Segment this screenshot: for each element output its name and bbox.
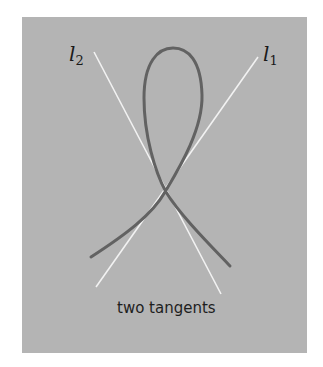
looped-curve xyxy=(91,48,230,266)
label-l2-subscript: 2 xyxy=(75,53,83,68)
label-l1: l1 xyxy=(263,44,278,67)
label-l2: l2 xyxy=(69,44,84,67)
figure-caption: two tangents xyxy=(117,301,216,316)
label-l1-subscript: 1 xyxy=(269,53,277,68)
